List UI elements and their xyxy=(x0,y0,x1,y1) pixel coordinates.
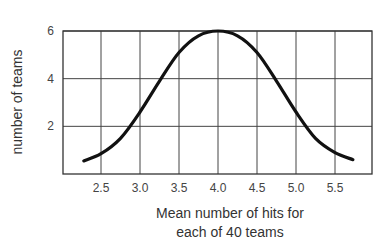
y-tick-label: 2 xyxy=(47,119,54,133)
x-tick-label: 4.5 xyxy=(249,181,266,195)
x-tick-label: 4.0 xyxy=(210,181,227,195)
x-tick-label: 5.5 xyxy=(327,181,344,195)
x-axis-label: Mean number of hits for each of 40 teams xyxy=(100,204,360,242)
x-tick-label: 2.5 xyxy=(93,181,110,195)
y-tick-labels: 246 xyxy=(47,24,54,133)
x-tick-labels: 2.53.03.54.04.55.05.5 xyxy=(93,181,344,195)
x-axis-label-line-2: each of 40 teams xyxy=(100,223,360,242)
y-tick-label: 6 xyxy=(47,24,54,38)
x-tick-label: 5.0 xyxy=(288,181,305,195)
y-tick-label: 4 xyxy=(47,72,54,86)
x-tick-label: 3.0 xyxy=(132,181,149,195)
y-axis-label: number of teams xyxy=(9,49,25,154)
x-tick-label: 3.5 xyxy=(171,181,188,195)
x-axis-label-line-1: Mean number of hits for xyxy=(100,204,360,223)
grid-lines xyxy=(63,31,372,174)
